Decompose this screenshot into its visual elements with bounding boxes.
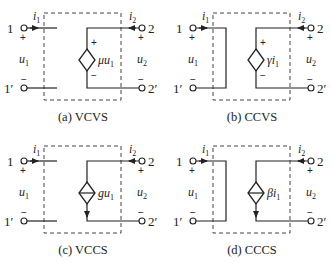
- terminal-1-icon: [190, 158, 196, 164]
- panel-caption: (c) VCCS: [58, 243, 107, 257]
- panel-a: +−μu111′22′i1i2+−+−u1u2(a) VCVS: [4, 9, 158, 124]
- port-label-1-prime: 1′: [173, 81, 183, 96]
- output-plus-sign: +: [307, 32, 313, 43]
- panel-caption: (d) CCCS: [227, 243, 277, 257]
- input-plus-sign: +: [20, 165, 26, 176]
- output-minus-sign: −: [307, 207, 313, 218]
- source-label: βi1: [266, 186, 280, 202]
- port-label-1: 1: [7, 21, 14, 36]
- port-label-2-prime: 2′: [317, 81, 327, 96]
- terminal-1-prime-icon: [21, 218, 27, 224]
- port-label-2-prime: 2′: [317, 214, 327, 229]
- terminal-2-icon: [139, 25, 145, 31]
- voltage-label-u1: u1: [19, 52, 29, 68]
- output-bottom-wire: [87, 204, 139, 221]
- source-minus-sign: −: [260, 70, 266, 81]
- input-minus-sign: −: [190, 207, 196, 218]
- panel-caption: (b) CCVS: [227, 110, 277, 124]
- input-plus-sign: +: [20, 32, 26, 43]
- panel-d: βi111′22′i1i2+−+−u1u2(d) CCCS: [173, 142, 327, 257]
- current-label-i2: i2: [129, 142, 136, 158]
- input-plus-sign: +: [189, 32, 195, 43]
- terminal-2-prime-icon: [308, 218, 314, 224]
- current-label-i2: i2: [298, 9, 305, 25]
- output-top-wire: [256, 161, 308, 182]
- output-plus-sign: +: [138, 165, 144, 176]
- voltage-label-u2: u2: [137, 52, 147, 68]
- voltage-label-u2: u2: [137, 185, 147, 201]
- current-label-i1: i1: [33, 9, 40, 25]
- dependent-voltage-source-icon: [79, 49, 95, 71]
- terminal-1-icon: [190, 25, 196, 31]
- current-label-i2: i2: [129, 9, 136, 25]
- output-plus-sign: +: [138, 32, 144, 43]
- port-label-2-prime: 2′: [148, 214, 158, 229]
- input-plus-sign: +: [189, 165, 195, 176]
- controlled-sources-figure: +−μu111′22′i1i2+−+−u1u2(a) VCVS+−γi111′2…: [0, 0, 332, 266]
- source-plus-sign: +: [91, 37, 97, 48]
- panel-caption: (a) VCVS: [58, 110, 108, 124]
- input-short-wire: [196, 161, 226, 221]
- port-label-1: 1: [7, 154, 14, 169]
- input-minus-sign: −: [190, 74, 196, 85]
- port-label-2: 2: [317, 154, 324, 169]
- source-minus-sign: −: [91, 70, 97, 81]
- current-label-i1: i1: [33, 142, 40, 158]
- terminal-1-icon: [21, 158, 27, 164]
- port-label-1-prime: 1′: [4, 81, 14, 96]
- source-label: γi1: [267, 53, 279, 69]
- terminal-2-icon: [308, 158, 314, 164]
- port-label-2: 2: [317, 21, 324, 36]
- output-minus-sign: −: [138, 207, 144, 218]
- output-plus-sign: +: [307, 165, 313, 176]
- port-label-1: 1: [176, 154, 183, 169]
- terminal-2-icon: [308, 25, 314, 31]
- output-bottom-wire: [256, 204, 308, 221]
- current-label-i2: i2: [298, 142, 305, 158]
- voltage-label-u2: u2: [306, 52, 316, 68]
- terminal-1-prime-icon: [190, 218, 196, 224]
- voltage-label-u1: u1: [188, 52, 198, 68]
- output-minus-sign: −: [307, 74, 313, 85]
- source-label: μu1: [97, 53, 114, 69]
- current-label-i1: i1: [202, 9, 209, 25]
- voltage-label-u1: u1: [19, 185, 29, 201]
- terminal-2-prime-icon: [139, 85, 145, 91]
- voltage-label-u2: u2: [306, 185, 316, 201]
- terminal-2-icon: [139, 158, 145, 164]
- terminal-1-prime-icon: [190, 85, 196, 91]
- terminal-1-icon: [21, 25, 27, 31]
- input-minus-sign: −: [21, 74, 27, 85]
- input-minus-sign: −: [21, 207, 27, 218]
- output-minus-sign: −: [138, 74, 144, 85]
- source-label: gu1: [98, 186, 114, 202]
- output-top-wire: [87, 161, 139, 182]
- terminal-1-prime-icon: [21, 85, 27, 91]
- terminal-2-prime-icon: [139, 218, 145, 224]
- dependent-voltage-source-icon: [248, 49, 264, 71]
- port-label-1-prime: 1′: [4, 214, 14, 229]
- port-label-2: 2: [148, 154, 155, 169]
- port-label-2-prime: 2′: [148, 81, 158, 96]
- panel-c: gu111′22′i1i2+−+−u1u2(c) VCCS: [4, 142, 158, 257]
- port-label-1: 1: [176, 21, 183, 36]
- source-plus-sign: +: [260, 37, 266, 48]
- current-label-i1: i1: [202, 142, 209, 158]
- input-short-wire: [196, 28, 226, 88]
- port-label-2: 2: [148, 21, 155, 36]
- terminal-2-prime-icon: [308, 85, 314, 91]
- port-label-1-prime: 1′: [173, 214, 183, 229]
- voltage-label-u1: u1: [188, 185, 198, 201]
- panel-b: +−γi111′22′i1i2+−+−u1u2(b) CCVS: [173, 9, 327, 124]
